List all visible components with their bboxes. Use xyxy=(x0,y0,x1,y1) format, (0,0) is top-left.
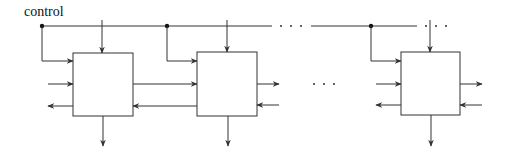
control-label: control xyxy=(24,4,64,19)
block-box xyxy=(197,52,257,116)
systolic-array-diagram: control xyxy=(0,0,507,160)
control-input-arrow xyxy=(167,26,197,61)
control-input-arrow xyxy=(371,26,401,61)
between-blocks-ellipsis xyxy=(313,83,335,85)
processing-block-1 xyxy=(40,20,133,146)
bus-ellipsis xyxy=(280,25,302,27)
block-box xyxy=(401,52,460,115)
processing-block-3 xyxy=(369,20,482,146)
control-input-arrow xyxy=(42,26,73,61)
bus-end-ellipsis xyxy=(425,25,447,27)
block-box xyxy=(73,53,133,116)
processing-block-2 xyxy=(165,20,279,146)
